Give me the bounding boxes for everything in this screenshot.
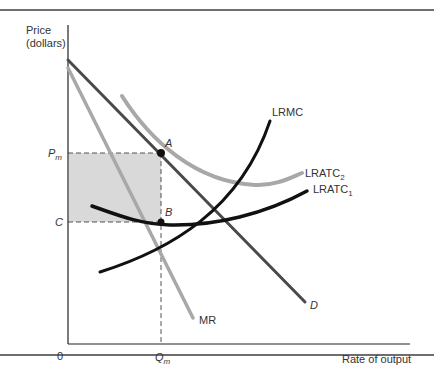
lratc1-label: LRATC1 bbox=[313, 183, 353, 198]
y-axis-label: Price bbox=[26, 24, 51, 36]
pm-label: Pm bbox=[48, 147, 62, 162]
point-a bbox=[157, 149, 165, 157]
demand-label: D bbox=[310, 299, 318, 311]
qm-label: Qm bbox=[155, 351, 171, 366]
point-a-label: A bbox=[164, 137, 172, 149]
x-axis-label: Rate of output bbox=[342, 353, 411, 365]
lratc2-label: LRATC2 bbox=[305, 167, 345, 182]
c-label: C bbox=[55, 216, 63, 228]
lrmc-label: LRMC bbox=[272, 106, 303, 118]
y-axis-label-units: (dollars) bbox=[26, 37, 66, 49]
point-b-label: B bbox=[165, 206, 172, 218]
mr-label: MR bbox=[199, 314, 216, 326]
point-b bbox=[158, 219, 165, 226]
monopoly-diagram: Price (dollars) Rate of output 0 Pm C Qm… bbox=[0, 0, 434, 384]
origin-label: 0 bbox=[57, 350, 63, 362]
